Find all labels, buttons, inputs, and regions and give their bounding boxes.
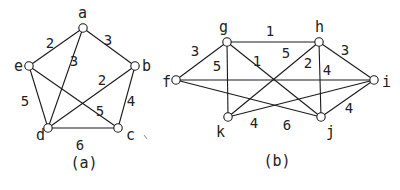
edge-weight-a-e: 2 bbox=[46, 35, 54, 51]
vertex-label-c: c bbox=[126, 126, 135, 144]
edge-weight-a-b: 3 bbox=[104, 32, 112, 48]
vertex-k bbox=[224, 113, 232, 121]
edge-weight-f-g: 3 bbox=[191, 43, 199, 59]
edge-weight-k-h: 5 bbox=[282, 45, 290, 61]
vertex-h bbox=[315, 38, 323, 46]
vertex-label-g: g bbox=[219, 18, 228, 36]
stray-mark bbox=[144, 135, 147, 139]
vertex-label-d: d bbox=[36, 126, 45, 144]
edge-e-d bbox=[29, 66, 48, 128]
edge-weight-e-d: 5 bbox=[21, 93, 29, 109]
vertex-e bbox=[25, 62, 33, 70]
edge-weight-f-j: 6 bbox=[283, 117, 291, 133]
graph-diagram-canvas: 23324556abcde(a) 31515234464fghikj(b) bbox=[0, 0, 400, 190]
edge-weight-a-d: 3 bbox=[70, 53, 78, 69]
edge-weight-h-i: 3 bbox=[341, 42, 349, 58]
edge-weight-g-h: 1 bbox=[266, 23, 274, 39]
vertex-g bbox=[223, 38, 231, 46]
edge-weight-b-d: 2 bbox=[98, 72, 106, 88]
graph-a: 23324556abcde(a) bbox=[14, 4, 151, 172]
vertex-label-a: a bbox=[78, 4, 87, 22]
edge-weight-j-i: 4 bbox=[345, 100, 353, 116]
graph-b: 31515234464fghikj(b) bbox=[162, 18, 391, 170]
edge-weight-e-c: 5 bbox=[96, 103, 104, 119]
vertex-label-b: b bbox=[142, 57, 151, 75]
vertex-f bbox=[172, 76, 180, 84]
vertex-label-e: e bbox=[14, 57, 23, 75]
edge-weight-g-k: 5 bbox=[213, 58, 221, 74]
edge-weight-f-i: 4 bbox=[323, 62, 331, 78]
edge-weight-h-j: 2 bbox=[304, 55, 312, 71]
vertex-label-h: h bbox=[315, 18, 324, 36]
edge-b-d bbox=[48, 66, 135, 128]
vertex-label-k: k bbox=[216, 123, 225, 141]
vertex-b bbox=[131, 62, 139, 70]
graph-caption: (a) bbox=[70, 154, 97, 172]
vertex-j bbox=[317, 113, 325, 121]
graph-caption: (b) bbox=[263, 152, 290, 170]
edge-weight-g-j: 1 bbox=[253, 53, 261, 69]
vertex-label-f: f bbox=[162, 73, 171, 91]
vertex-i bbox=[370, 76, 378, 84]
edge-weight-k-i: 4 bbox=[250, 115, 258, 131]
vertex-d bbox=[44, 124, 52, 132]
vertex-a bbox=[79, 24, 87, 32]
vertex-label-i: i bbox=[382, 73, 391, 91]
vertex-label-j: j bbox=[326, 123, 335, 141]
edge-weight-d-c: 6 bbox=[76, 137, 84, 153]
edge-weight-b-c: 4 bbox=[127, 93, 135, 109]
vertex-c bbox=[114, 124, 122, 132]
